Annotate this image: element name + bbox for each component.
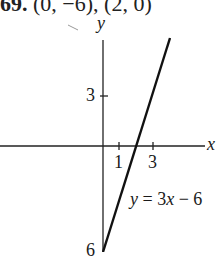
equation-label: y = 3x − 6 xyxy=(130,189,202,210)
tick-label-x3: 3 xyxy=(148,152,157,173)
tick-label-yneg6: 6 xyxy=(86,240,95,260)
tick-label-x1: 1 xyxy=(114,152,123,173)
y-axis-label: y xyxy=(97,13,105,34)
x-axis-label: x xyxy=(207,134,215,155)
stray-mark xyxy=(68,25,78,30)
tick-label-y3: 3 xyxy=(86,85,95,106)
function-line xyxy=(103,38,170,252)
